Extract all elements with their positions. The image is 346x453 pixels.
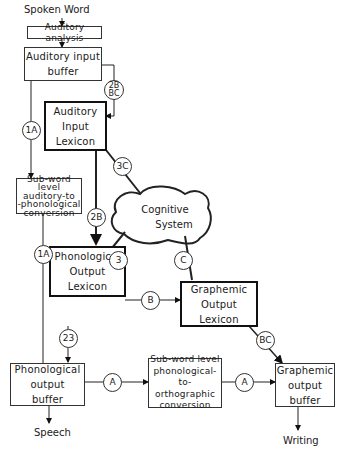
output-label-writing: Writing — [283, 435, 319, 446]
route-badge-3: 3 — [109, 251, 128, 270]
route-badge-a-left: A — [103, 373, 122, 392]
route-badge-2b: 2B — [87, 208, 106, 227]
auditory-input-lexicon-box: Auditory Input Lexicon — [44, 101, 107, 151]
cognitive-system-label: Cognitive System — [130, 202, 200, 232]
auditory-analysis-box: Auditory analysis — [27, 26, 102, 39]
route-badge-b: B — [141, 291, 160, 310]
route-badge-3c: 3C — [113, 157, 132, 176]
subword-phonological-to-orthographic-box: Sub-word level phonological-to- orthogra… — [148, 358, 222, 408]
auditory-input-buffer-box: Auditory input buffer — [24, 47, 102, 81]
output-label-speech: Speech — [34, 427, 71, 438]
input-label-spoken-word: Spoken Word — [24, 4, 90, 15]
route-badge-1a-upper: 1A — [22, 121, 41, 140]
route-badge-a-right: A — [235, 373, 254, 392]
route-badge-23: 23 — [59, 329, 78, 348]
graphemic-output-lexicon-box: Graphemic Output Lexicon — [180, 281, 258, 327]
phonological-output-buffer-box: Phonological output buffer — [10, 363, 85, 406]
graphemic-output-buffer-box: Graphemic output buffer — [275, 363, 335, 407]
subword-auditory-to-phonological-box: Sub-word level auditory-to -phonological… — [16, 178, 82, 214]
route-badge-2b-bc: 2B BC — [104, 80, 124, 100]
route-badge-bc: BC — [256, 331, 275, 350]
route-badge-1a-lower: 1A — [34, 245, 53, 264]
route-badge-c: C — [174, 251, 193, 270]
